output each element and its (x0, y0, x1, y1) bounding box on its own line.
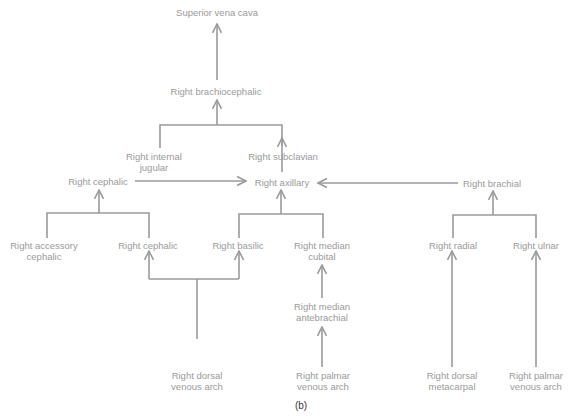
node-right-median-cubital: Right mediancubital (294, 240, 350, 262)
node-right-axillary: Right axillary (255, 177, 309, 188)
node-right-median-antebrachial: Right medianantebrachial (294, 301, 350, 323)
node-right-accessory-cephalic: Right accessorycephalic (10, 240, 78, 262)
bracket-jugular-subclavian (160, 125, 282, 148)
node-right-dorsal-metacarpal: Right dorsalmetacarpal (427, 370, 478, 392)
venous-drainage-diagram (0, 0, 572, 416)
node-right-palmar-venous-arch-mid: Right palmarvenous arch (296, 370, 350, 392)
node-superior-vena-cava: Superior vena cava (176, 7, 258, 18)
node-right-cephalic-lower: Right cephalic (118, 240, 178, 251)
node-right-internal-jugular: Right internaljugular (126, 151, 182, 173)
node-right-dorsal-venous-arch: Right dorsalvenous arch (171, 370, 223, 392)
node-right-brachial: Right brachial (463, 178, 521, 189)
node-right-brachiocephalic: Right brachiocephalic (171, 86, 262, 97)
bracket-basilic-cubital (239, 214, 323, 238)
node-right-palmar-venous-arch-right: Right palmarvenous arch (509, 370, 563, 392)
node-right-basilic: Right basilic (212, 240, 263, 251)
bracket-radial-ulnar (453, 215, 536, 238)
node-right-cephalic-upper: Right cephalic (68, 176, 128, 187)
node-right-subclavian: Right subclavian (248, 151, 318, 162)
node-right-radial: Right radial (429, 240, 477, 251)
bracket-accessory-cephalic (47, 213, 149, 238)
figure-caption: (b) (295, 400, 307, 411)
node-right-ulnar: Right ulnar (513, 240, 559, 251)
